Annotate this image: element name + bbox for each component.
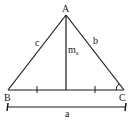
median-label-subscript: a xyxy=(76,50,79,56)
angle-arc-c xyxy=(116,84,119,90)
side-label-b: b xyxy=(93,35,98,46)
side-label-c: c xyxy=(35,37,40,48)
median-label: ma xyxy=(68,44,79,56)
dimension-end-right xyxy=(125,103,126,111)
side-c-line xyxy=(8,15,66,90)
vertex-label-c: C xyxy=(119,92,126,103)
side-label-a: a xyxy=(65,108,70,119)
vertex-label-b: B xyxy=(4,92,11,103)
vertex-label-a: A xyxy=(62,3,70,14)
triangle-diagram: A B C c b a ma xyxy=(0,0,134,122)
dimension-end-left xyxy=(7,103,8,111)
